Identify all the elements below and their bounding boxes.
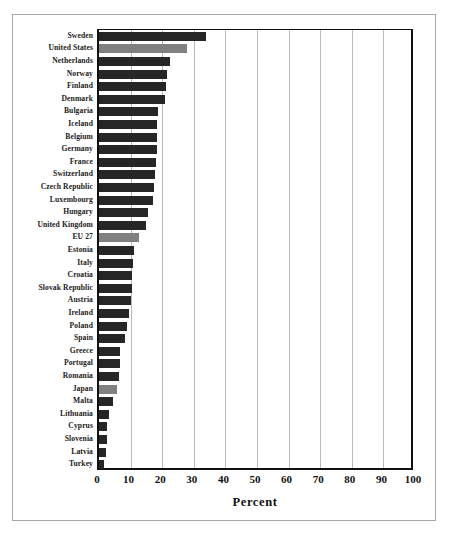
category-label: Lithuania <box>0 410 93 418</box>
bar-row <box>99 359 411 368</box>
bar-luxembourg <box>99 196 153 205</box>
bar-ireland <box>99 309 129 318</box>
bar-row <box>99 133 411 142</box>
category-label: Slovenia <box>0 435 93 443</box>
category-label: Slovak Republic <box>0 284 93 292</box>
tick-label-100: 100 <box>405 474 422 485</box>
category-label: Austria <box>0 296 93 304</box>
bar-row <box>99 284 411 293</box>
category-label: Estonia <box>0 246 93 254</box>
bar-series <box>99 30 411 468</box>
category-label: Switzerland <box>0 170 93 178</box>
bar-row <box>99 296 411 305</box>
bar-finland <box>99 82 166 91</box>
bar-row <box>99 95 411 104</box>
category-label: Sweden <box>0 32 93 40</box>
category-label: Iceland <box>0 120 93 128</box>
bar-row <box>99 107 411 116</box>
bar-japan <box>99 385 117 394</box>
bar-row <box>99 246 411 255</box>
bar-greece <box>99 347 120 356</box>
category-label: Italy <box>0 259 93 267</box>
bar-row <box>99 32 411 41</box>
bar-row <box>99 372 411 381</box>
category-label: Portugal <box>0 359 93 367</box>
bar-belgium <box>99 133 157 142</box>
bar-turkey <box>99 460 104 469</box>
category-label: Cyprus <box>0 422 93 430</box>
bar-row <box>99 309 411 318</box>
bar-row <box>99 208 411 217</box>
bar-lithuania <box>99 410 109 419</box>
plot-area <box>97 29 413 470</box>
category-label: Germany <box>0 145 93 153</box>
category-label: Turkey <box>0 460 93 468</box>
bar-netherlands <box>99 57 170 66</box>
bar-cyprus <box>99 422 107 431</box>
tick-label-0: 0 <box>94 474 100 485</box>
tick-label-90: 90 <box>376 474 387 485</box>
tick-label-20: 20 <box>155 474 166 485</box>
bar-czech-republic <box>99 183 154 192</box>
figure: SwedenUnited StatesNetherlandsNorwayFinl… <box>0 0 450 540</box>
bar-row <box>99 271 411 280</box>
category-label: United States <box>0 44 93 52</box>
bar-row <box>99 57 411 66</box>
category-label: Luxembourg <box>0 196 93 204</box>
bar-latvia <box>99 448 106 457</box>
category-label: France <box>0 158 93 166</box>
tick-label-40: 40 <box>218 474 229 485</box>
tick-label-80: 80 <box>344 474 355 485</box>
bar-row <box>99 385 411 394</box>
category-label: Romania <box>0 372 93 380</box>
bar-row <box>99 196 411 205</box>
category-label: Japan <box>0 385 93 393</box>
category-label: Spain <box>0 334 93 342</box>
bar-row <box>99 259 411 268</box>
bar-row <box>99 170 411 179</box>
tick-label-50: 50 <box>250 474 261 485</box>
bar-denmark <box>99 95 165 104</box>
bar-row <box>99 334 411 343</box>
category-label: Latvia <box>0 448 93 456</box>
value-axis-title: Percent <box>97 495 413 510</box>
category-label: Poland <box>0 322 93 330</box>
bar-bulgaria <box>99 107 158 116</box>
bar-row <box>99 397 411 406</box>
tick-label-60: 60 <box>281 474 292 485</box>
bar-norway <box>99 70 167 79</box>
bar-croatia <box>99 271 132 280</box>
bar-row <box>99 183 411 192</box>
bar-row <box>99 233 411 242</box>
bar-estonia <box>99 246 134 255</box>
bar-malta <box>99 397 113 406</box>
bar-row <box>99 120 411 129</box>
bar-row <box>99 221 411 230</box>
bar-sweden <box>99 32 206 41</box>
bar-austria <box>99 296 131 305</box>
bar-slovenia <box>99 435 107 444</box>
category-label: Bulgaria <box>0 107 93 115</box>
category-label: United Kingdom <box>0 221 93 229</box>
bar-hungary <box>99 208 148 217</box>
bar-row <box>99 410 411 419</box>
category-label: Belgium <box>0 133 93 141</box>
bar-spain <box>99 334 125 343</box>
category-label: Netherlands <box>0 57 93 65</box>
bar-row <box>99 422 411 431</box>
bar-row <box>99 322 411 331</box>
tick-label-10: 10 <box>123 474 134 485</box>
bar-row <box>99 70 411 79</box>
bar-iceland <box>99 120 157 129</box>
bar-row <box>99 44 411 53</box>
bar-row <box>99 448 411 457</box>
bar-poland <box>99 322 127 331</box>
category-label: Greece <box>0 347 93 355</box>
category-label: Czech Republic <box>0 183 93 191</box>
bar-row <box>99 82 411 91</box>
bar-row <box>99 435 411 444</box>
bar-row <box>99 347 411 356</box>
bar-italy <box>99 259 133 268</box>
category-label: EU 27 <box>0 233 93 241</box>
category-label: Norway <box>0 70 93 78</box>
